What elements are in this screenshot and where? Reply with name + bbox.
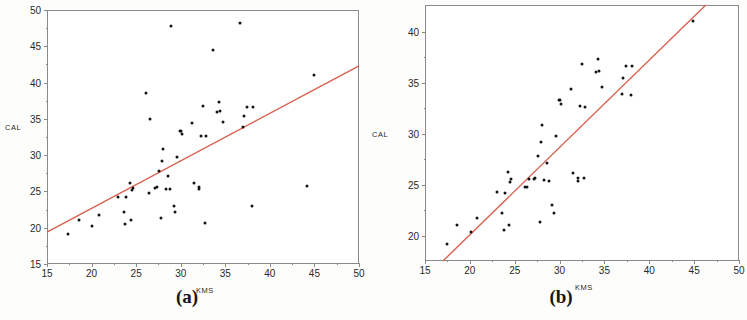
data-point	[551, 203, 554, 206]
data-point	[124, 223, 127, 226]
data-point	[600, 85, 603, 88]
data-point	[543, 179, 546, 182]
data-point	[582, 177, 585, 180]
data-point	[502, 229, 505, 232]
data-point	[570, 87, 573, 90]
x-axis-title: KMS	[196, 286, 214, 295]
data-point	[128, 181, 131, 184]
data-point	[160, 217, 163, 220]
data-point	[131, 186, 134, 189]
data-point	[193, 182, 196, 185]
data-point	[147, 191, 150, 194]
data-point	[528, 178, 531, 181]
y-axis-tick-label: 30	[399, 128, 419, 139]
panel-a: 15202530354045501520253035404550CALKMS(a…	[0, 0, 374, 320]
data-point	[200, 134, 203, 137]
data-point	[526, 185, 529, 188]
data-point	[172, 204, 175, 207]
data-point	[560, 102, 563, 105]
plot-area	[425, 5, 739, 261]
y-axis-tick-label: 35	[21, 113, 41, 124]
data-point	[509, 181, 512, 184]
data-point	[203, 222, 206, 225]
x-axis-tick	[359, 263, 360, 267]
x-axis-tick-label: 45	[309, 268, 320, 279]
x-axis-tick-label: 25	[131, 268, 142, 279]
data-point	[251, 204, 254, 207]
panel-caption: (a)	[176, 286, 198, 308]
x-axis-tick-label: 40	[644, 265, 655, 276]
data-point	[204, 135, 207, 138]
data-point	[598, 70, 601, 73]
y-axis-tick	[44, 264, 48, 265]
data-point	[630, 93, 633, 96]
data-point	[553, 212, 556, 215]
data-point	[169, 24, 172, 27]
data-point	[202, 104, 205, 107]
y-axis-tick-label: 15	[21, 259, 41, 270]
x-axis-title: KMS	[575, 283, 593, 292]
data-point	[169, 188, 172, 191]
data-point	[579, 104, 582, 107]
data-point	[218, 109, 221, 112]
data-point	[243, 114, 246, 117]
x-axis-tick-label: 15	[419, 265, 430, 276]
y-axis-tick-label: 40	[399, 26, 419, 37]
y-axis-title: CAL	[5, 122, 21, 131]
data-point	[624, 65, 627, 68]
data-point	[198, 186, 201, 189]
data-point	[312, 74, 315, 77]
data-point	[167, 175, 170, 178]
x-axis-tick-label: 50	[353, 268, 364, 279]
figure-two-panel-scatter: 15202530354045501520253035404550CALKMS(a…	[0, 0, 747, 320]
data-point	[91, 224, 94, 227]
data-point	[117, 195, 120, 198]
panel-b: 15202530354045502025303540CALKMS(b)	[374, 0, 747, 320]
regression-line	[425, 5, 739, 261]
data-point	[597, 58, 600, 61]
data-point	[122, 210, 125, 213]
data-point	[577, 177, 580, 180]
plot-area	[47, 10, 359, 264]
x-axis-tick-label: 40	[264, 268, 275, 279]
x-axis-tick-label: 25	[509, 265, 520, 276]
x-axis-tick-label: 50	[733, 265, 744, 276]
data-point	[692, 20, 695, 23]
data-point	[501, 212, 504, 215]
data-point	[547, 180, 550, 183]
y-axis-tick-label: 45	[21, 41, 41, 52]
data-point	[164, 187, 167, 190]
x-axis-tick	[739, 260, 740, 264]
data-point	[211, 48, 214, 51]
data-point	[507, 171, 510, 174]
y-axis-title: CAL	[372, 129, 388, 138]
y-axis-tick-label: 20	[399, 230, 419, 241]
x-axis-tick-label: 30	[554, 265, 565, 276]
data-point	[538, 221, 541, 224]
data-point	[218, 101, 221, 104]
data-point	[456, 224, 459, 227]
data-point	[242, 125, 245, 128]
data-point	[495, 190, 498, 193]
y-axis-tick-label: 30	[21, 150, 41, 161]
data-point	[238, 22, 241, 25]
data-point	[572, 172, 575, 175]
data-point	[181, 133, 184, 136]
data-point	[160, 159, 163, 162]
data-point	[539, 140, 542, 143]
data-point	[622, 77, 625, 80]
data-point	[546, 162, 549, 165]
data-point	[155, 186, 158, 189]
data-point	[158, 170, 161, 173]
data-point	[78, 219, 81, 222]
data-point	[221, 120, 224, 123]
x-axis-tick-label: 20	[86, 268, 97, 279]
data-point	[510, 178, 513, 181]
data-point	[558, 98, 561, 101]
data-point	[149, 117, 152, 120]
data-point	[125, 196, 128, 199]
y-axis-tick-label: 20	[21, 222, 41, 233]
x-axis-tick-label: 30	[175, 268, 186, 279]
data-point	[306, 184, 309, 187]
data-point	[174, 210, 177, 213]
